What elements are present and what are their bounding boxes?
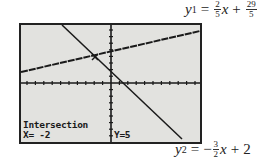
y2-sign: − bbox=[203, 141, 211, 158]
y1-var: y bbox=[185, 1, 192, 18]
equation-y2: y2 = − 32 x + 2 bbox=[175, 140, 251, 159]
y2-var: y bbox=[175, 141, 182, 158]
y1-slope-fraction: 25 bbox=[214, 0, 221, 19]
y1-intercept-fraction: 295 bbox=[246, 0, 257, 19]
y2-sub: 2 bbox=[182, 144, 187, 155]
x-readout: X= -2 bbox=[23, 130, 50, 140]
calculator-screen: Intersection X= -2 Y=5 bbox=[19, 23, 202, 144]
y1-sub: 1 bbox=[192, 4, 197, 15]
y1-x: x bbox=[222, 1, 229, 18]
y-readout: Y=5 bbox=[114, 130, 130, 140]
y2-slope-den: 2 bbox=[214, 150, 219, 159]
y1-slope-den: 5 bbox=[215, 10, 220, 19]
y2-intercept: 2 bbox=[243, 141, 251, 158]
y1-plus: + bbox=[232, 1, 240, 18]
y2-equals: = bbox=[191, 141, 199, 158]
y2-slope-fraction: 32 bbox=[213, 140, 220, 159]
y1-int-den: 5 bbox=[249, 10, 254, 19]
y2-x: x bbox=[220, 141, 227, 158]
y2-plus: + bbox=[231, 141, 239, 158]
y1-equals: = bbox=[201, 1, 209, 18]
equation-y1: y1 = 25 x + 295 bbox=[185, 0, 258, 19]
